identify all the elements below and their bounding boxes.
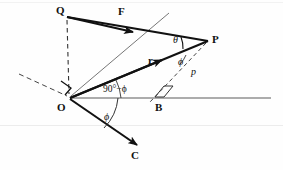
label-angle-phi-at-o: ϕ [104, 112, 109, 122]
physics-vector-diagram: Q F P θ r ϕ p 90°−ϕ O B ϕ C [0, 0, 283, 170]
label-point-b: B [155, 102, 162, 113]
label-angle-complement: 90°−ϕ [103, 85, 127, 95]
label-point-o: O [57, 102, 66, 113]
diagram-canvas [0, 0, 283, 170]
label-point-q: Q [56, 5, 65, 16]
label-point-p: P [212, 34, 219, 45]
label-point-c: C [131, 150, 139, 161]
label-moment-arm-p: p [191, 67, 196, 77]
label-angle-phi-at-p: ϕ [178, 57, 183, 67]
label-vector-f: F [118, 6, 125, 17]
label-angle-theta: θ [173, 35, 178, 45]
label-vector-r: r [148, 55, 153, 66]
